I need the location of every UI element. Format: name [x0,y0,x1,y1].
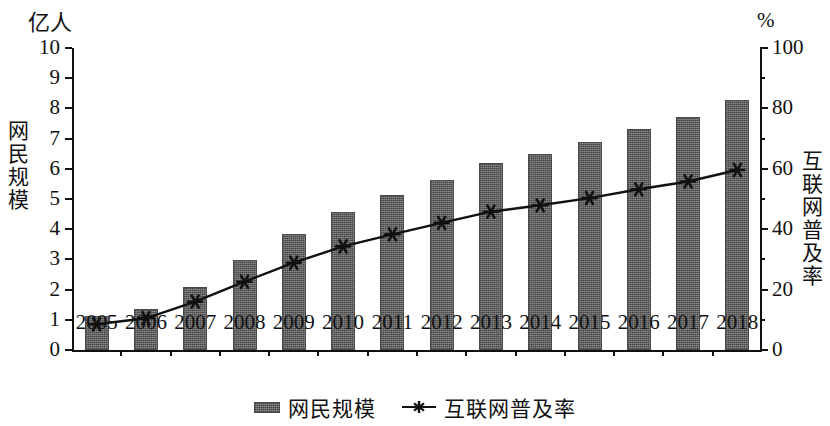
x-axis-label: 2011 [364,310,420,335]
left-axis-tick [65,77,72,79]
left-axis-tick-label: 6 [20,158,60,179]
left-axis-tick-label: 1 [20,309,60,330]
plot-area: 012345678910 020406080100 [72,48,762,352]
x-axis-label: 2018 [709,310,765,335]
left-axis-tick-label: 10 [20,37,60,58]
line-marker-asterisk-icon [188,296,202,308]
legend-label-bar: 网民规模 [288,392,376,422]
line-marker-asterisk-icon [287,257,301,269]
legend-bar-swatch-icon [254,402,280,413]
x-axis-label: 2009 [266,310,322,335]
x-axis-label: 2012 [414,310,470,335]
right-axis-tick-label: 80 [772,97,818,118]
line-marker-asterisk-icon [583,192,597,204]
line-marker-asterisk-icon [484,206,498,218]
line-marker-asterisk-icon [238,276,252,288]
x-axis-label: 2015 [562,310,618,335]
left-axis-tick [65,168,72,170]
x-axis-label: 2016 [611,310,667,335]
left-axis-tick [65,258,72,260]
left-axis-tick [65,289,72,291]
x-axis-label: 2010 [315,310,371,335]
left-axis-tick-label: 0 [20,339,60,360]
line-series-layer [72,48,762,352]
legend-label-line: 互联网普及率 [444,392,576,422]
x-axis-label: 2017 [660,310,716,335]
left-axis-tick-label: 4 [20,218,60,239]
left-axis-tick-label: 7 [20,128,60,149]
x-axis-label: 2006 [118,310,174,335]
line-marker-asterisk-icon [632,183,646,195]
right-axis-tick-label: 60 [772,158,818,179]
x-axis-label: 2005 [69,310,125,335]
line-marker-asterisk-icon [336,240,350,252]
x-axis-label: 2014 [512,310,568,335]
left-axis-tick-label: 2 [20,279,60,300]
left-axis-tick [65,198,72,200]
left-axis-tick [65,349,72,351]
chart-container: 亿人 % 网民规模 互联网普及率 012345678910 0204060801… [0,0,830,426]
right-axis-tick-label: 100 [772,37,818,58]
x-axis-label: 2008 [217,310,273,335]
line-marker-asterisk-icon [435,217,449,229]
chart-legend: 网民规模 互联网普及率 [0,392,830,422]
right-axis-tick-label: 0 [772,339,818,360]
right-axis-tick-label: 20 [772,279,818,300]
legend-line-asterisk-icon [402,400,436,414]
line-marker-asterisk-icon [681,175,695,187]
legend-item-line: 互联网普及率 [402,392,576,422]
line-marker-asterisk-icon [385,228,399,240]
right-axis-tick-label: 40 [772,218,818,239]
left-axis-tick-label: 3 [20,248,60,269]
left-axis-unit-label: 亿人 [28,4,72,36]
line-marker-asterisk-icon [533,199,547,211]
line-marker-asterisk-icon [730,164,744,176]
left-axis-tick-label: 9 [20,67,60,88]
x-axis-label: 2007 [167,310,223,335]
x-axis-label: 2013 [463,310,519,335]
left-axis-tick [65,47,72,49]
left-axis-tick [65,138,72,140]
legend-item-bar: 网民规模 [254,392,376,422]
left-axis-tick [65,228,72,230]
right-axis-unit-label: % [757,8,775,33]
left-axis-tick-label: 8 [20,97,60,118]
left-axis-tick [65,107,72,109]
left-axis-tick-label: 5 [20,188,60,209]
